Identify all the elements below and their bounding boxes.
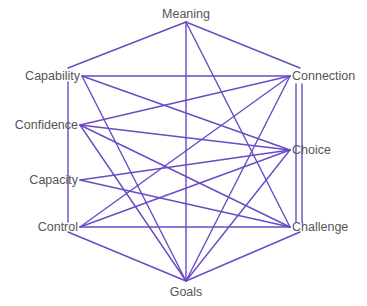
- node-label-choice: Choice: [292, 143, 331, 157]
- node-label-connection: Connection: [292, 69, 355, 83]
- node-label-meaning: Meaning: [162, 7, 210, 21]
- node-label-challenge: Challenge: [292, 220, 348, 234]
- node-label-confidence: Confidence: [15, 118, 78, 132]
- edge-control-connection: [80, 76, 290, 227]
- node-label-control: Control: [38, 220, 78, 234]
- hexagon-network-diagram: Meaning Capability Confidence Capacity C…: [0, 0, 367, 306]
- frame-edge-6: [186, 232, 300, 281]
- edge-meaning-challenge: [186, 22, 290, 227]
- edge-confidence-connection: [80, 76, 290, 125]
- node-label-capability: Capability: [25, 69, 80, 83]
- frame-edge-5: [68, 232, 186, 281]
- frame-edge-1: [186, 22, 300, 68]
- node-label-capacity: Capacity: [29, 173, 78, 187]
- edge-connection-goals: [186, 76, 290, 281]
- node-label-goals: Goals: [170, 285, 203, 299]
- edge-confidence-goals: [80, 125, 186, 281]
- frame-edge-0: [68, 22, 186, 68]
- edge-control-choice: [80, 150, 290, 227]
